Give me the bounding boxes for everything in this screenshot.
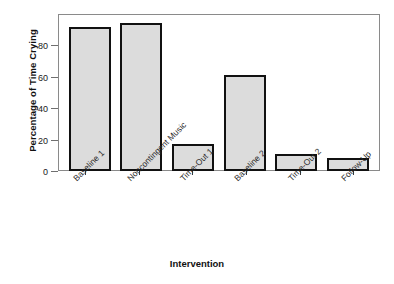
y-tick-mark: 40 xyxy=(51,108,58,109)
y-tick-mark: 0 xyxy=(51,171,58,172)
y-axis-title: Percentage of Time Crying xyxy=(27,11,38,171)
bar-slot xyxy=(275,14,317,171)
y-tick-mark: 60 xyxy=(51,77,58,78)
y-tick-label: 60 xyxy=(38,73,48,83)
y-tick-label: 0 xyxy=(43,167,48,177)
y-tick-label: 80 xyxy=(38,41,48,51)
y-tick-label: 40 xyxy=(38,104,48,114)
bar-slot xyxy=(69,14,111,171)
bar xyxy=(69,27,111,171)
x-axis-tick-labels: Baseline 1Noncontingent MusicTime-Out 1B… xyxy=(58,176,380,246)
x-axis-title: Intervention xyxy=(0,258,394,269)
y-tick-mark: 20 xyxy=(51,140,58,141)
y-tick-label: 20 xyxy=(38,136,48,146)
bars-container xyxy=(58,14,380,171)
y-tick-mark: 80 xyxy=(51,45,58,46)
bar-chart-figure: Percentage of Time Crying 020406080 Base… xyxy=(0,0,394,284)
bar-slot xyxy=(327,14,369,171)
